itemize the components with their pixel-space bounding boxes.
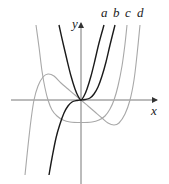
function-graph: [0, 0, 169, 184]
curve-label-b: b: [113, 6, 120, 19]
x-axis-label: x: [151, 104, 157, 117]
curve-label-c: c: [125, 6, 131, 19]
curve-label-d: d: [137, 6, 144, 19]
y-axis-label: y: [72, 17, 78, 30]
curve-label-a: a: [101, 6, 108, 19]
